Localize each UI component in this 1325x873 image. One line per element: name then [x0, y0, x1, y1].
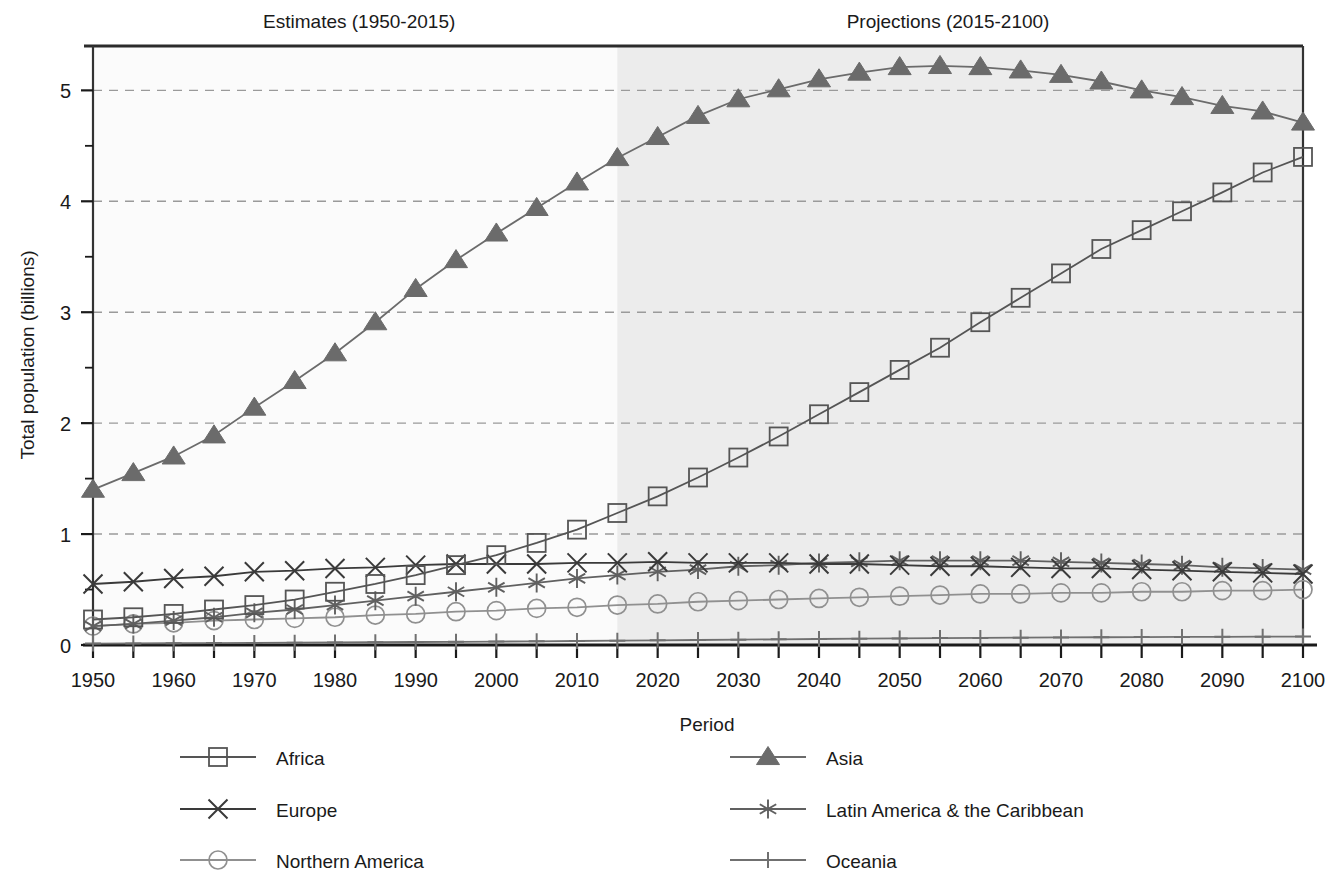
- x-tick-label: 1960: [151, 669, 196, 691]
- y-axis-title: Total population (billions): [17, 250, 38, 459]
- x-tick-label: 2020: [635, 669, 680, 691]
- x-tick-label: 1990: [393, 669, 438, 691]
- x-tick-label: 2100: [1281, 669, 1325, 691]
- y-tick-label: 1: [60, 524, 71, 546]
- y-tick-label: 0: [60, 635, 71, 657]
- x-tick-label: 1970: [232, 669, 277, 691]
- x-tick-label: 2000: [474, 669, 519, 691]
- y-tick-label: 3: [60, 302, 71, 324]
- legend-label: Latin America & the Caribbean: [826, 800, 1084, 821]
- projections-region-label: Projections (2015-2100): [847, 11, 1050, 32]
- x-tick-label: 2010: [555, 669, 600, 691]
- y-tick-label: 2: [60, 413, 71, 435]
- x-axis-title: Period: [680, 714, 735, 735]
- plot-background: [93, 46, 1303, 645]
- legend-label: Europe: [276, 800, 337, 821]
- x-tick-label: 2070: [1039, 669, 1084, 691]
- estimates-region-label: Estimates (1950-2015): [263, 11, 455, 32]
- legend-label: Africa: [276, 748, 325, 769]
- chart-canvas: 0123451950196019701980199020002010202020…: [0, 0, 1325, 873]
- x-tick-label: 2080: [1119, 669, 1164, 691]
- y-tick-label: 5: [60, 80, 71, 102]
- x-tick-label: 1950: [71, 669, 116, 691]
- legend-label: Northern America: [276, 851, 424, 872]
- x-tick-label: 2060: [958, 669, 1003, 691]
- x-tick-label: 2050: [877, 669, 922, 691]
- population-chart-figure: 0123451950196019701980199020002010202020…: [0, 0, 1325, 873]
- x-tick-label: 2040: [797, 669, 842, 691]
- legend-label: Asia: [826, 748, 863, 769]
- y-tick-label: 4: [60, 191, 71, 213]
- x-tick-label: 1980: [313, 669, 358, 691]
- x-tick-label: 2030: [716, 669, 761, 691]
- x-tick-label: 2090: [1200, 669, 1245, 691]
- legend-label: Oceania: [826, 851, 897, 872]
